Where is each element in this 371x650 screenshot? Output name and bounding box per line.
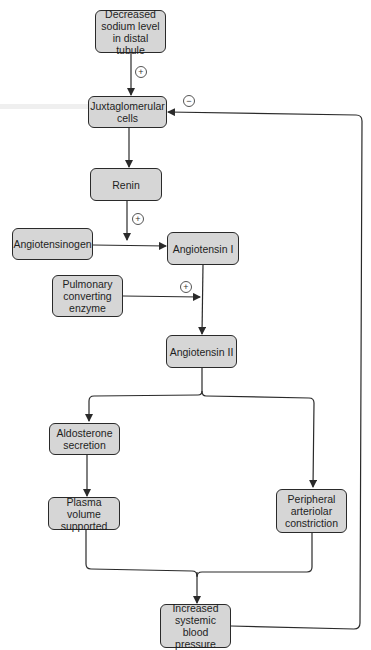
arrow-angiotensinogen-to-ang1 — [93, 245, 166, 246]
node-angiotensin-2: Angiotensin II — [166, 335, 237, 368]
node-increased-bp: Increased systemic blood pressure — [160, 604, 231, 648]
plus-sign-icon: + — [135, 66, 147, 78]
arrow-ang2-to-peripheral — [202, 391, 314, 487]
node-plasma-volume: Plasma volume supported — [48, 497, 120, 530]
arrow-pulmonary — [123, 296, 200, 297]
node-angiotensin-1: Angiotensin I — [167, 232, 239, 265]
node-decreased-sodium: Decreased sodium level in distal tubule — [95, 10, 166, 53]
line-plasma-merge — [86, 530, 197, 576]
line-peripheral-merge — [197, 533, 312, 577]
plus-sign-icon: + — [132, 213, 144, 225]
arrow-ang1-to-ang2 — [202, 265, 203, 334]
node-angiotensinogen: Angiotensinogen — [12, 228, 93, 260]
node-renin: Renin — [90, 168, 162, 201]
node-aldosterone-secretion: Aldosterone secretion — [49, 423, 120, 455]
minus-sign-icon: − — [183, 95, 195, 107]
node-pulmonary-converting-enzyme: Pulmonary converting enzyme — [52, 275, 123, 317]
node-peripheral-constriction: Peripheral arteriolar constriction — [276, 489, 347, 533]
node-juxtaglomerular-cells: Juxtaglomerular cells — [88, 96, 167, 128]
arrow-feedback-to-jg — [168, 112, 362, 629]
plus-sign-icon: + — [180, 281, 192, 293]
arrow-ang2-to-aldosterone — [89, 368, 202, 421]
